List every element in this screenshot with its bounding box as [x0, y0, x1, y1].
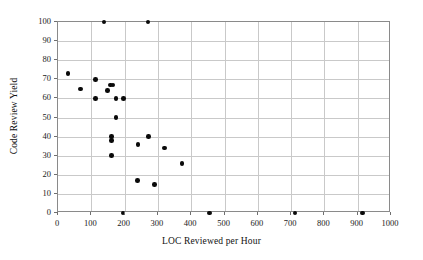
- x-tick-mark: [157, 212, 158, 215]
- y-tick-label: 20: [27, 169, 51, 179]
- x-tick-label: 500: [206, 218, 242, 228]
- y-tick-mark: [54, 136, 57, 137]
- data-point: [152, 182, 157, 187]
- x-tick-mark: [90, 212, 91, 215]
- x-tick-label: 600: [239, 218, 275, 228]
- gridline-vertical: [258, 22, 259, 211]
- y-tick-label: 60: [27, 92, 51, 102]
- x-tick-mark: [57, 212, 58, 215]
- y-tick-label: 10: [27, 188, 51, 198]
- x-tick-label: 800: [305, 218, 341, 228]
- data-point: [146, 20, 151, 25]
- y-tick-label: 40: [27, 131, 51, 141]
- gridline-vertical: [191, 22, 192, 211]
- data-point: [111, 83, 116, 88]
- x-tick-label: 100: [72, 218, 108, 228]
- x-tick-mark: [323, 212, 324, 215]
- gridline-horizontal: [58, 41, 389, 42]
- data-point: [162, 146, 167, 151]
- data-point: [66, 71, 71, 76]
- gridline-vertical: [358, 22, 359, 211]
- data-point: [102, 20, 107, 25]
- y-tick-label: 50: [27, 112, 51, 122]
- gridline-horizontal: [58, 175, 389, 176]
- x-axis-title: LOC Reviewed per Hour: [0, 236, 423, 246]
- data-point: [207, 211, 212, 216]
- y-tick-label: 70: [27, 73, 51, 83]
- y-tick-label: 90: [27, 35, 51, 45]
- y-tick-mark: [54, 21, 57, 22]
- y-tick-label: 80: [27, 54, 51, 64]
- gridline-horizontal: [58, 79, 389, 80]
- data-point: [78, 87, 83, 92]
- x-tick-label: 200: [106, 218, 142, 228]
- data-point: [93, 96, 98, 101]
- x-tick-mark: [257, 212, 258, 215]
- scatter-chart-figure: 01002003004005006007008009001000 0102030…: [0, 0, 423, 260]
- data-point: [114, 96, 119, 101]
- gridline-vertical: [125, 22, 126, 211]
- gridline-horizontal: [58, 137, 389, 138]
- data-point: [109, 153, 114, 158]
- y-tick-mark: [54, 40, 57, 41]
- y-tick-label: 0: [27, 207, 51, 217]
- y-tick-mark: [54, 59, 57, 60]
- y-tick-mark: [54, 193, 57, 194]
- x-tick-mark: [390, 212, 391, 215]
- gridline-horizontal: [58, 118, 389, 119]
- x-tick-label: 0: [39, 218, 75, 228]
- data-point: [109, 138, 114, 143]
- x-tick-label: 300: [139, 218, 175, 228]
- data-point: [146, 134, 151, 139]
- y-tick-mark: [54, 212, 57, 213]
- gridline-horizontal: [58, 60, 389, 61]
- x-tick-label: 700: [272, 218, 308, 228]
- x-tick-mark: [124, 212, 125, 215]
- y-tick-mark: [54, 117, 57, 118]
- gridline-vertical: [291, 22, 292, 211]
- gridline-vertical: [158, 22, 159, 211]
- data-point: [180, 161, 185, 166]
- x-tick-mark: [190, 212, 191, 215]
- y-tick-mark: [54, 78, 57, 79]
- x-tick-label: 1000: [372, 218, 408, 228]
- data-point: [114, 115, 119, 120]
- data-point: [105, 88, 110, 93]
- data-point: [121, 96, 126, 101]
- data-point: [135, 178, 140, 183]
- y-tick-label: 30: [27, 150, 51, 160]
- y-tick-mark: [54, 97, 57, 98]
- data-point: [293, 211, 298, 216]
- plot-area: [57, 21, 390, 212]
- gridline-vertical: [225, 22, 226, 211]
- gridline-vertical: [91, 22, 92, 211]
- data-point: [360, 211, 365, 216]
- x-tick-mark: [224, 212, 225, 215]
- x-tick-label: 400: [172, 218, 208, 228]
- data-point: [136, 142, 141, 147]
- gridline-vertical: [324, 22, 325, 211]
- gridline-horizontal: [58, 156, 389, 157]
- y-tick-mark: [54, 174, 57, 175]
- gridline-horizontal: [58, 194, 389, 195]
- x-tick-mark: [290, 212, 291, 215]
- x-tick-label: 900: [339, 218, 375, 228]
- y-axis-title: Code Review Yield: [9, 78, 19, 155]
- gridline-horizontal: [58, 98, 389, 99]
- y-tick-mark: [54, 155, 57, 156]
- y-tick-label: 100: [27, 16, 51, 26]
- x-tick-mark: [357, 212, 358, 215]
- data-point: [93, 77, 98, 82]
